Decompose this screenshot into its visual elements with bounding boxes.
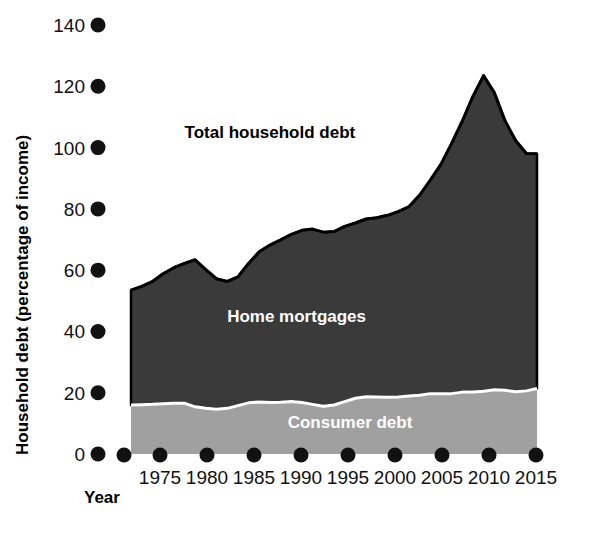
y-tick-label: 0	[74, 444, 85, 465]
y-tick-dot	[91, 263, 106, 278]
y-tick-label: 100	[53, 138, 85, 159]
y-tick-label: 60	[64, 260, 85, 281]
x-tick-dot	[341, 448, 356, 463]
y-tick-label: 80	[64, 199, 85, 220]
x-tick-dot	[435, 448, 450, 463]
y-tick-label: 120	[53, 76, 85, 97]
x-tick-label: 2000	[374, 467, 416, 488]
x-axis-origin-dot	[117, 448, 132, 463]
y-tick-label: 40	[64, 321, 85, 342]
x-tick-label: 1985	[233, 467, 275, 488]
y-tick-dot	[91, 385, 106, 400]
x-tick-label: 2015	[515, 467, 557, 488]
x-axis-title: Year	[84, 488, 120, 507]
y-tick-dot	[91, 447, 106, 462]
y-tick-dot	[91, 18, 106, 33]
y-tick-dot	[91, 79, 106, 94]
x-tick-dot	[294, 448, 309, 463]
debt-area-chart: Household debt (percentage of income) 02…	[0, 0, 590, 539]
x-tick-label: 1975	[139, 467, 181, 488]
series-annotation: Total household debt	[185, 123, 356, 142]
y-axis-ticks: 020406080100120140	[53, 15, 105, 465]
x-tick-dot	[247, 448, 262, 463]
x-tick-label: 2005	[421, 467, 463, 488]
x-tick-label: 1990	[280, 467, 322, 488]
chart-canvas: Household debt (percentage of income) 02…	[0, 0, 590, 539]
y-tick-label: 20	[64, 383, 85, 404]
x-tick-dot	[200, 448, 215, 463]
y-axis-title: Household debt (percentage of income)	[13, 135, 32, 455]
x-tick-dot	[388, 448, 403, 463]
y-tick-dot	[91, 324, 106, 339]
x-tick-label: 1995	[327, 467, 369, 488]
x-tick-label: 1980	[186, 467, 228, 488]
x-tick-dot	[482, 448, 497, 463]
series-annotation: Home mortgages	[227, 307, 366, 326]
x-tick-dot	[529, 448, 544, 463]
x-tick-dot	[153, 448, 168, 463]
x-tick-label: 2010	[468, 467, 510, 488]
y-tick-dot	[91, 140, 106, 155]
series-annotation: Consumer debt	[288, 413, 413, 432]
y-tick-dot	[91, 201, 106, 216]
y-tick-label: 140	[53, 15, 85, 36]
